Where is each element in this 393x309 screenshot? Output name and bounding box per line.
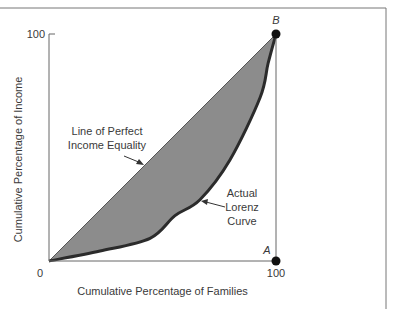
lorenz-label-line-1: Actual [227,187,258,199]
equality-label-line-1: Line of Perfect [72,125,143,137]
lorenz-label-line-2: Lorenz [225,201,259,213]
y-tick-label-100: 100 [27,28,45,40]
equality-arrowhead-icon [136,159,144,165]
equality-label-line-2: Income Equality [68,139,147,151]
point-b [272,30,281,39]
lorenz-arrowhead-icon [201,199,208,205]
point-b-label: B [272,14,279,26]
lorenz-annotation: Actual Lorenz Curve [201,187,259,227]
point-a [272,257,281,266]
y-axis-title: Cumulative Percentage of Income [12,77,24,243]
equality-annotation: Line of Perfect Income Equality [68,125,147,165]
lorenz-chart: 100 0 100 Cumulative Percentage of Famil… [0,0,393,309]
lorenz-label-line-3: Curve [227,215,256,227]
lorenz-arrow [206,202,225,207]
x-tick-label-0: 0 [37,267,43,279]
x-tick-label-100: 100 [267,267,285,279]
point-a-label: A [262,244,270,256]
x-axis-title: Cumulative Percentage of Families [77,285,248,297]
